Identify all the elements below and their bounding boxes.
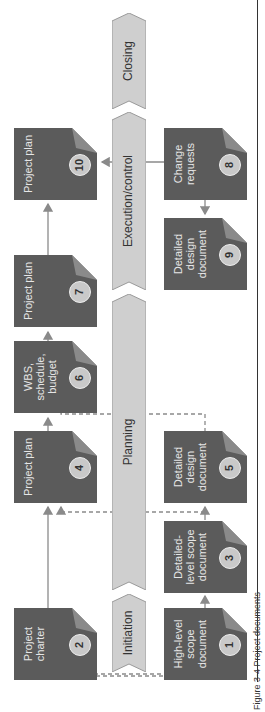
document-number-badge: 2 — [69, 634, 91, 656]
document-5-detailed-design: Detailed design document 5 — [164, 431, 247, 503]
document-label: Project plan — [22, 259, 34, 323]
document-label: Project charter — [22, 612, 46, 676]
document-number-badge: 5 — [219, 457, 241, 479]
document-label: Detailed design document — [172, 435, 208, 499]
phase-label: Execution/control — [121, 112, 135, 290]
document-number-badge: 1 — [219, 634, 241, 656]
document-number-badge: 4 — [69, 457, 91, 479]
document-label: Project plan — [22, 132, 34, 196]
document-8-change-requests: Change requests 8 — [164, 128, 247, 200]
document-4-project-plan: Project plan 4 — [14, 431, 97, 503]
document-label: High-level scope document — [172, 612, 208, 676]
document-number-badge: 9 — [219, 244, 241, 266]
document-1-high-level-scope: High-level scope document 1 — [164, 608, 247, 680]
document-label: Detailed design document — [172, 222, 208, 286]
phase-label: Initiation — [121, 594, 135, 672]
document-7-project-plan: Project plan 7 — [14, 255, 97, 327]
document-label: Project plan — [22, 435, 34, 499]
document-2-project-charter: Project charter 2 — [14, 608, 97, 680]
document-9-detailed-design: Detailed design document 9 — [164, 218, 247, 290]
document-number-badge: 7 — [69, 281, 91, 303]
document-number-badge: 3 — [219, 547, 241, 569]
document-label: Change requests — [172, 132, 196, 196]
document-label: WBS, schedule, budget — [22, 345, 58, 409]
document-3-detailed-level-scope: Detailed-level scope document 3 — [164, 521, 247, 593]
phase-initiation: Initiation — [112, 594, 146, 672]
document-number-badge: 6 — [69, 367, 91, 389]
phase-closing: Closing — [112, 13, 146, 109]
phase-execution-control: Execution/control — [112, 112, 146, 290]
project-documents-diagram: Initiation Planning Execution/control Cl… — [0, 0, 265, 712]
document-number-badge: 8 — [219, 154, 241, 176]
phase-label: Closing — [121, 13, 135, 109]
document-number-badge: 10 — [69, 154, 91, 176]
phase-planning: Planning — [112, 294, 146, 590]
document-label: Detailed-level scope document — [172, 525, 208, 589]
document-6-wbs-schedule-budget: WBS, schedule, budget 6 — [14, 341, 97, 413]
figure-caption: Figure 3-4 Project documents — [252, 592, 262, 710]
document-10-project-plan: Project plan 10 — [14, 128, 97, 200]
phase-label: Planning — [121, 294, 135, 590]
figure-rule — [257, 0, 258, 682]
